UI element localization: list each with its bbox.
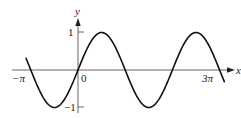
x-tick-label-0: 0 (81, 72, 87, 84)
x-axis-arrow-icon (227, 67, 235, 72)
x-tick-label-3pi: 3π (201, 72, 214, 84)
y-axis-label: y (74, 5, 80, 17)
x-tick-label-neg-pi: −π (12, 72, 25, 84)
sine-graph: y x 1 −1 0 −π 3π (0, 0, 241, 118)
y-axis-arrow-icon (75, 18, 80, 26)
y-tick-label-1: 1 (68, 26, 74, 38)
x-axis-label: x (235, 64, 241, 76)
y-tick-label-neg1: −1 (64, 101, 76, 113)
